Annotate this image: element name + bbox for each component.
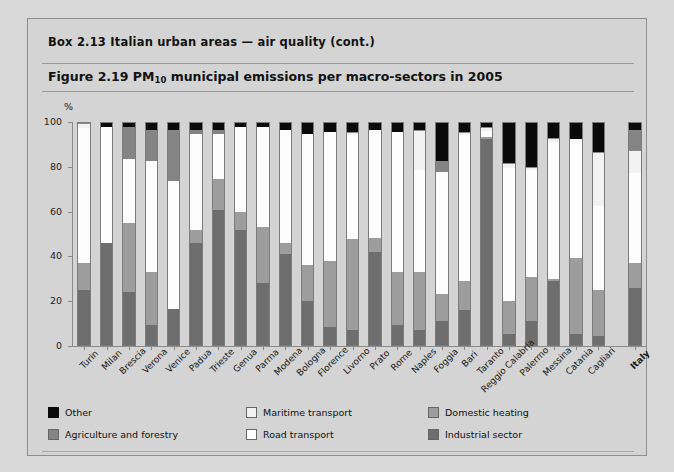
legend-label: Industrial sector <box>445 429 522 440</box>
bar-segment-domestic-heating <box>146 272 157 325</box>
bar-segment-domestic-heating <box>503 301 514 334</box>
bar-segment-industrial-sector <box>347 330 358 345</box>
legend-item-industrial[interactable]: Industrial sector <box>428 429 522 440</box>
bar-segment-domestic-heating <box>257 227 268 283</box>
bar-segment-road-transport <box>570 139 581 259</box>
bar-segment-industrial-sector <box>146 325 157 345</box>
bar-segment-other <box>213 123 224 130</box>
bar-segment-industrial-sector <box>593 336 604 345</box>
bar-segment-industrial-sector <box>503 334 514 345</box>
legend-item-maritime[interactable]: Maritime transport <box>246 407 352 418</box>
bar-cagliari <box>592 122 605 346</box>
bar-segment-road-transport <box>123 159 134 223</box>
bar-segment-domestic-heating <box>123 223 134 292</box>
legend-item-heating[interactable]: Domestic heating <box>428 407 529 418</box>
bar-segment-domestic-heating <box>392 272 403 325</box>
bar-segment-domestic-heating <box>414 272 425 329</box>
bar-segment-other <box>392 123 403 132</box>
bar-segment-domestic-heating <box>213 179 224 210</box>
x-axis-label-naples: Naples <box>409 346 438 375</box>
legend-item-other[interactable]: Other <box>48 407 92 418</box>
bar-segment-industrial-sector <box>324 327 335 345</box>
bar-segment-domestic-heating <box>570 258 581 333</box>
legend-item-road[interactable]: Road transport <box>246 429 334 440</box>
bar-segment-agriculture-and-forestry <box>146 130 157 161</box>
bar-segment-other <box>526 123 537 167</box>
bar-segment-road-transport <box>369 130 380 239</box>
chart-legend: OtherMaritime transportDomestic heatingA… <box>48 407 628 451</box>
bar-segment-industrial-sector <box>459 310 470 345</box>
bar-segment-domestic-heating <box>324 261 335 328</box>
bar-italy <box>628 122 641 346</box>
legend-swatch-industrial-icon <box>428 429 439 440</box>
bar-segment-industrial-sector <box>257 283 268 345</box>
bar-prato <box>368 122 381 346</box>
bar-segment-maritime-transport <box>593 152 604 206</box>
bar-segment-industrial-sector <box>78 290 89 345</box>
bar-segment-industrial-sector <box>436 321 447 345</box>
bar-segment-domestic-heating <box>593 290 604 336</box>
bar-segment-domestic-heating <box>369 238 380 251</box>
bar-segment-road-transport <box>436 172 447 294</box>
bar-segment-domestic-heating <box>459 281 470 310</box>
y-tick-label: 0 <box>28 340 62 351</box>
legend-item-agri[interactable]: Agriculture and forestry <box>48 429 178 440</box>
bar-milan <box>100 122 113 346</box>
bar-segment-other <box>280 123 291 130</box>
bar-segment-industrial-sector <box>235 230 246 345</box>
y-tick-label: 100 <box>28 116 62 127</box>
bar-segment-domestic-heating <box>302 265 313 301</box>
bar-segment-domestic-heating <box>347 239 358 330</box>
bar-segment-industrial-sector <box>570 334 581 345</box>
bar-padua <box>189 122 202 346</box>
bar-segment-other <box>369 123 380 130</box>
y-axis-unit-label: % <box>64 101 73 112</box>
bar-brescia <box>122 122 135 346</box>
bar-segment-industrial-sector <box>369 252 380 345</box>
legend-swatch-agri-icon <box>48 429 59 440</box>
bar-segment-industrial-sector <box>213 210 224 345</box>
bar-segment-other <box>503 123 514 163</box>
bar-bari <box>458 122 471 346</box>
bar-segment-maritime-transport <box>414 130 425 171</box>
bar-segment-domestic-heating <box>436 294 447 321</box>
bar-segment-road-transport <box>257 127 268 227</box>
bar-segment-other <box>414 123 425 130</box>
divider-above-legend <box>42 451 634 452</box>
bar-segment-road-transport <box>481 131 492 138</box>
bar-segment-road-transport <box>78 128 89 263</box>
bar-segment-other <box>190 123 201 130</box>
bar-florence <box>323 122 336 346</box>
bar-segment-other <box>593 123 604 152</box>
bar-segment-agriculture-and-forestry <box>629 130 640 150</box>
bar-segment-industrial-sector <box>280 254 291 345</box>
bar-segment-industrial-sector <box>548 281 559 345</box>
bar-segment-road-transport <box>101 127 112 242</box>
bar-segment-road-transport <box>347 135 358 239</box>
bar-segment-other <box>324 123 335 132</box>
bar-segment-road-transport <box>459 135 470 281</box>
bar-segment-other <box>436 123 447 161</box>
bar-naples <box>413 122 426 346</box>
bar-verona <box>145 122 158 346</box>
bar-segment-industrial-sector <box>629 288 640 345</box>
y-tick-label: 60 <box>28 206 62 217</box>
legend-swatch-maritime-icon <box>246 407 257 418</box>
bar-segment-road-transport <box>324 132 335 261</box>
bar-venice <box>167 122 180 346</box>
bar-segment-industrial-sector <box>101 243 112 345</box>
bar-segment-industrial-sector <box>168 309 179 345</box>
legend-swatch-road-icon <box>246 429 257 440</box>
bar-segment-road-transport <box>168 181 179 310</box>
bar-segment-industrial-sector <box>123 292 134 345</box>
bar-segment-road-transport <box>235 127 246 211</box>
plot-area: % 020406080100 TurinMilanBresciaVeronaVe… <box>28 19 648 457</box>
y-tick-label: 20 <box>28 295 62 306</box>
legend-label: Domestic heating <box>445 407 529 418</box>
y-tick-label: 40 <box>28 250 62 261</box>
legend-swatch-heating-icon <box>428 407 439 418</box>
bar-rome <box>391 122 404 346</box>
bar-segment-domestic-heating <box>190 230 201 243</box>
x-axis-label-genua: Genua <box>231 347 259 375</box>
bar-turin <box>77 122 90 346</box>
